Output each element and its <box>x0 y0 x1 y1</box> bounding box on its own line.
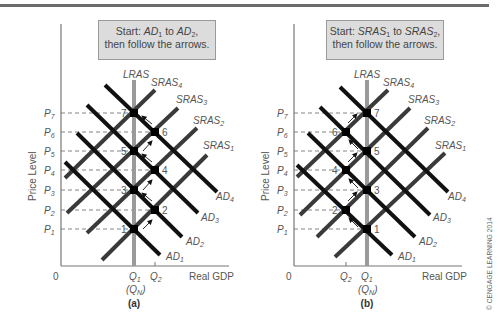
origin-label: 0 <box>286 271 292 282</box>
p7-label: P7 <box>277 108 289 120</box>
p3-label: P3 <box>277 185 288 197</box>
sras2-label: SRAS2 <box>193 115 224 127</box>
q1-label: Q1 <box>129 271 141 283</box>
p6-label: P6 <box>44 127 55 139</box>
sras1-label: SRAS1 <box>435 140 466 152</box>
ad3-label: AD3 <box>200 212 219 224</box>
point-label-7: 7 <box>121 108 127 119</box>
ad1-label: AD1 <box>397 251 416 263</box>
p1-label: P1 <box>44 224 55 236</box>
point-label-1: 1 <box>374 224 380 235</box>
origin-label: 0 <box>53 271 59 282</box>
ad4-label: AD4 <box>215 191 234 203</box>
q1-label: Q1 <box>361 271 373 283</box>
q2-label: Q2 <box>150 271 162 283</box>
y-axis-label: Price Level <box>260 152 271 201</box>
point-label-6: 6 <box>162 127 168 138</box>
p4-label: P4 <box>277 165 288 177</box>
point-label-3: 3 <box>121 185 127 196</box>
x-axis-label: Real GDP <box>189 271 234 282</box>
sras3-label: SRAS3 <box>408 94 439 106</box>
lras-label: LRAS <box>354 69 380 80</box>
sras2-label: SRAS2 <box>424 115 455 127</box>
point-label-4: 4 <box>162 165 168 176</box>
diagram-canvas: 1 2 3 4 5 6 7 P7 P6 P5 P4 P3 P2 P1 LRAS … <box>0 0 500 327</box>
ad1-label: AD1 <box>165 251 184 263</box>
qn-label: (QN) <box>358 284 378 296</box>
panel-a: 1 2 3 4 5 6 7 P7 P6 P5 P4 P3 P2 P1 LRAS … <box>27 24 234 309</box>
point-label-4: 4 <box>332 165 338 176</box>
point-label-2: 2 <box>162 205 168 216</box>
panel-b: 1 2 3 4 5 6 7 P7 P6 P5 P4 P3 P2 P1 LRAS … <box>260 24 467 309</box>
point-label-1: 1 <box>121 224 127 235</box>
y-axis-label: Price Level <box>27 152 38 201</box>
lras-label: LRAS <box>123 69 149 80</box>
point-label-6: 6 <box>332 127 338 138</box>
sras1-label: SRAS1 <box>203 140 234 152</box>
p6-label: P6 <box>277 127 288 139</box>
point-label-7: 7 <box>374 108 380 119</box>
p1-label: P1 <box>277 224 288 236</box>
point-label-5: 5 <box>121 146 127 157</box>
copyright-notice: © CENGAGE LEARNING 2014 <box>486 217 493 310</box>
p4-label: P4 <box>44 165 55 177</box>
q2-label: Q2 <box>340 271 352 283</box>
x-axis-label: Real GDP <box>422 271 467 282</box>
p7-label: P7 <box>44 108 56 120</box>
ad3-label: AD3 <box>432 212 451 224</box>
qn-label: (QN) <box>126 284 146 296</box>
point-label-5: 5 <box>374 146 380 157</box>
ad4-label: AD4 <box>447 191 466 203</box>
panel-caption-a: (a) <box>128 298 140 309</box>
sras4-label: SRAS4 <box>151 77 182 89</box>
ad2-label: AD2 <box>185 236 204 248</box>
sras4-label: SRAS4 <box>383 77 414 89</box>
p5-label: P5 <box>277 146 288 158</box>
ad2-label: AD2 <box>418 236 437 248</box>
p2-label: P2 <box>277 205 288 217</box>
p5-label: P5 <box>44 146 55 158</box>
p2-label: P2 <box>44 205 55 217</box>
ad-lines <box>297 87 448 255</box>
panel-caption-b: (b) <box>361 298 374 309</box>
p3-label: P3 <box>44 185 55 197</box>
sras3-label: SRAS3 <box>176 94 207 106</box>
point-label-3: 3 <box>374 185 380 196</box>
point-label-2: 2 <box>332 205 338 216</box>
